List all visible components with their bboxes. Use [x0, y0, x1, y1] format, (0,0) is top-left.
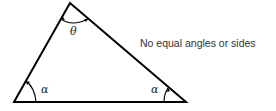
- angle-label-bottom-left: α: [41, 83, 49, 96]
- angle-label-bottom-right: α: [151, 83, 159, 96]
- diagram-caption: No equal angles or sides: [140, 37, 256, 49]
- angle-arc-bottom-right: [164, 88, 168, 102]
- triangle-diagram: θ α α: [0, 0, 276, 111]
- angle-label-top: θ: [70, 25, 77, 38]
- angle-arc-top: [61, 19, 88, 23]
- triangle: [14, 3, 186, 102]
